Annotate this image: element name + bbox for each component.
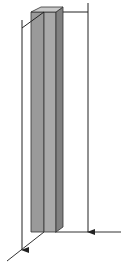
column-projection-diagram [0,0,125,274]
column-right-face [56,7,63,232]
column-front-face [44,12,56,232]
column-left-face [31,12,44,232]
column-box [31,7,63,232]
diagram-canvas [0,0,125,274]
ground-diagonal-line [7,232,44,261]
